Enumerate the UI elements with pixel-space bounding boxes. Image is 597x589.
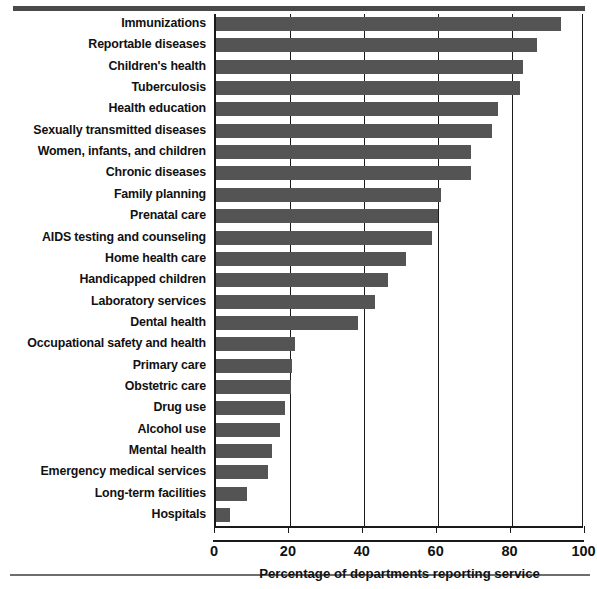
category-label: Immunizations <box>0 16 206 30</box>
category-label: Obstetric care <box>0 379 206 393</box>
bar <box>216 145 471 159</box>
bar <box>216 209 438 223</box>
category-label: AIDS testing and counseling <box>0 230 206 244</box>
category-label: Primary care <box>0 358 206 372</box>
category-label: Tuberculosis <box>0 80 206 94</box>
bar <box>216 295 375 309</box>
category-label: Prenatal care <box>0 208 206 222</box>
category-label: Chronic diseases <box>0 165 206 179</box>
tick-label: 80 <box>502 543 518 559</box>
tick-mark-60 <box>436 526 437 533</box>
category-label: Dental health <box>0 315 206 329</box>
x-axis-line <box>213 540 584 542</box>
top-rule <box>13 6 585 11</box>
category-label: Occupational safety and health <box>0 336 206 350</box>
bar <box>216 401 285 415</box>
tick-label: 0 <box>210 543 218 559</box>
category-label: Laboratory services <box>0 294 206 308</box>
tick-label: 60 <box>428 543 444 559</box>
bar <box>216 465 268 479</box>
category-label: Children's health <box>0 59 206 73</box>
bar <box>216 231 432 245</box>
category-label: Mental health <box>0 443 206 457</box>
tick-mark-100 <box>584 526 585 533</box>
bar <box>216 380 291 394</box>
category-label: Handicapped children <box>0 272 206 286</box>
category-label: Long-term facilities <box>0 486 206 500</box>
tick-mark-40 <box>362 526 363 533</box>
chart-page: ImmunizationsReportable diseasesChildren… <box>0 0 597 589</box>
bar <box>216 81 520 95</box>
category-label: Drug use <box>0 400 206 414</box>
bar <box>216 444 272 458</box>
category-axis-labels: ImmunizationsReportable diseasesChildren… <box>0 12 210 528</box>
bar <box>216 124 492 138</box>
bar <box>216 60 523 74</box>
category-label: Family planning <box>0 187 206 201</box>
x-axis-tick-labels: 020406080100 <box>0 543 597 563</box>
category-label: Home health care <box>0 251 206 265</box>
bar <box>216 487 247 501</box>
category-label: Sexually transmitted diseases <box>0 123 206 137</box>
bar <box>216 273 388 287</box>
bar <box>216 252 406 266</box>
bar <box>216 38 537 52</box>
category-label: Women, infants, and children <box>0 144 206 158</box>
category-label: Hospitals <box>0 507 206 521</box>
bar <box>216 166 471 180</box>
bar-chart: ImmunizationsReportable diseasesChildren… <box>0 12 597 532</box>
tick-mark-80 <box>510 526 511 533</box>
tick-label: 40 <box>354 543 370 559</box>
bar <box>216 188 441 202</box>
bar <box>216 17 561 31</box>
x-axis-title: Percentage of departments reporting serv… <box>214 566 585 581</box>
category-label: Alcohol use <box>0 422 206 436</box>
category-label: Reportable diseases <box>0 37 206 51</box>
x-axis-tick-marks <box>214 526 585 534</box>
tick-label: 20 <box>280 543 296 559</box>
bar <box>216 316 358 330</box>
bar <box>216 423 280 437</box>
bar <box>216 102 498 116</box>
category-label: Health education <box>0 101 206 115</box>
bar <box>216 337 295 351</box>
tick-mark-0 <box>214 526 215 533</box>
tick-label: 100 <box>571 543 595 559</box>
bar <box>216 359 292 373</box>
category-label: Emergency medical services <box>0 464 206 478</box>
tick-mark-20 <box>288 526 289 533</box>
plot-area <box>214 14 583 528</box>
bar <box>216 508 230 522</box>
